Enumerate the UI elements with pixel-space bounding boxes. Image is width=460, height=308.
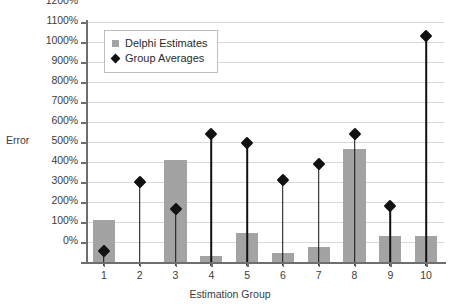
x-axis-tick-label: 8 <box>352 270 358 281</box>
y-axis-tick-mark <box>81 62 86 64</box>
marker-stem <box>175 209 177 266</box>
legend-item-group-averages: Group Averages <box>112 51 208 66</box>
y-axis-tick-mark <box>81 242 86 244</box>
x-axis-tick-label: 1 <box>101 270 107 281</box>
y-axis-tick-mark <box>81 122 86 124</box>
x-axis-tick-label: 9 <box>387 270 393 281</box>
gridline <box>86 162 444 163</box>
marker-stem <box>211 134 213 266</box>
x-axis-tick-mark <box>355 262 357 267</box>
x-axis-tick-label: 10 <box>420 270 432 281</box>
y-axis-tick-label: 600% <box>18 115 78 126</box>
gridline <box>86 102 444 103</box>
y-axis-tick-mark <box>81 82 86 84</box>
y-axis-tick-label: 1100% <box>18 15 78 26</box>
legend-label-delphi-estimates: Delphi Estimates <box>125 38 208 49</box>
x-axis-tick-mark <box>140 262 142 267</box>
gridline <box>86 142 444 143</box>
y-axis-tick-label: 1200% <box>18 0 78 5</box>
x-axis-title: Estimation Group <box>0 289 460 300</box>
marker-stem <box>246 143 248 266</box>
y-axis-line <box>86 20 88 264</box>
x-axis-tick-mark <box>104 262 106 267</box>
x-axis-tick-mark <box>247 262 249 267</box>
marker-stem <box>139 182 141 266</box>
y-axis-tick-label: 200% <box>18 195 78 206</box>
chart-container: 0%100%200%300%400%500%600%700%800%900%10… <box>0 0 460 308</box>
marker-stem <box>425 36 427 266</box>
x-axis-tick-label: 7 <box>316 270 322 281</box>
y-axis-tick-mark <box>81 22 86 24</box>
y-axis-tick-mark <box>81 102 86 104</box>
gridline <box>86 122 444 123</box>
x-axis-tick-label: 6 <box>280 270 286 281</box>
y-axis-tick-labels: 0%100%200%300%400%500%600%700%800%900%10… <box>16 0 78 240</box>
marker-stem <box>282 180 284 266</box>
x-axis-tick-label: 3 <box>173 270 179 281</box>
y-axis-tick-mark <box>81 42 86 44</box>
y-axis-tick-label: 400% <box>18 155 78 166</box>
x-axis-tick-label: 4 <box>208 270 214 281</box>
y-axis-tick-mark <box>81 162 86 164</box>
x-axis-tick-label: 2 <box>137 270 143 281</box>
y-axis-tick-mark <box>81 182 86 184</box>
x-axis-tick-mark <box>176 262 178 267</box>
x-axis-tick-mark <box>319 262 321 267</box>
x-axis-tick-mark <box>426 262 428 267</box>
y-axis-tick-label: 100% <box>18 215 78 226</box>
x-axis-tick-mark <box>211 262 213 267</box>
y-axis-tick-mark <box>81 262 86 264</box>
y-axis-tick-label: 700% <box>18 95 78 106</box>
y-axis-tick-mark <box>81 202 86 204</box>
y-axis-title: Error <box>6 135 29 146</box>
y-axis-tick-mark <box>81 142 86 144</box>
legend-label-group-averages: Group Averages <box>125 53 204 64</box>
marker-stem <box>354 134 356 266</box>
marker-stem <box>390 206 392 266</box>
marker-stem <box>318 164 320 266</box>
gridline <box>86 22 444 23</box>
legend-square-icon <box>112 40 125 47</box>
y-axis-tick-label: 0% <box>18 235 78 246</box>
y-axis-tick-label: 800% <box>18 75 78 86</box>
y-axis-tick-label: 900% <box>18 55 78 66</box>
x-axis-tick-label: 5 <box>244 270 250 281</box>
y-axis-tick-mark <box>81 222 86 224</box>
legend-diamond-icon <box>112 55 125 62</box>
x-axis-tick-mark <box>283 262 285 267</box>
y-axis-tick-label: 300% <box>18 175 78 186</box>
x-axis-tick-mark <box>390 262 392 267</box>
chart-legend: Delphi Estimates Group Averages <box>104 30 218 73</box>
legend-item-delphi-estimates: Delphi Estimates <box>112 36 208 51</box>
gridline <box>86 82 444 83</box>
y-axis-tick-label: 1000% <box>18 35 78 46</box>
